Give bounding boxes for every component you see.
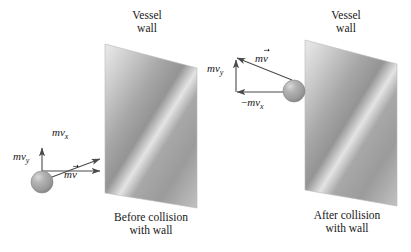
caption-before-line2: with wall <box>103 224 199 237</box>
vector-label-mvy-after-m: m <box>207 62 215 74</box>
vector-label-mv-before: mv <box>64 168 77 180</box>
vector-label-mv-after-m: m <box>255 52 263 64</box>
vector-label-mvy-before-sub: y <box>26 156 30 165</box>
vector-label-mv-before-m: m <box>64 168 72 180</box>
caption-after-line2: with wall <box>301 222 393 235</box>
panel-after-graphics <box>236 40 397 206</box>
physics-diagram-figure: Vessel wall Before collision with wall m… <box>0 0 411 252</box>
vessel-wall-label-before: Vessel wall <box>119 9 175 35</box>
vessel-wall-label-after-line1: Vessel <box>318 9 374 22</box>
vector-label-minus-mvx-after-m: m <box>247 96 255 108</box>
caption-after-line1: After collision <box>301 209 393 222</box>
caption-before-line1: Before collision <box>103 211 199 224</box>
vessel-wall-label-before-line1: Vessel <box>119 9 175 22</box>
vessel-wall-label-after-line2: wall <box>318 22 374 35</box>
caption-after: After collision with wall <box>301 209 393 235</box>
vector-label-mvx-before-sub: x <box>65 132 69 141</box>
vessel-wall-label-after: Vessel wall <box>318 9 374 35</box>
vector-label-mvx-before: mvx <box>52 126 68 142</box>
vector-label-mvy-after-sub: y <box>220 68 224 77</box>
vessel-wall-before <box>105 44 197 208</box>
vector-label-mv-after: mv <box>255 52 268 64</box>
vector-label-minus-mvx-after: −mvx <box>241 96 264 112</box>
vector-label-mv-before-v: v <box>72 168 77 180</box>
vector-label-mvy-after: mvy <box>207 62 223 78</box>
vector-label-mvy-before-m: m <box>13 150 21 162</box>
vector-label-mv-after-v: v <box>263 52 268 64</box>
vessel-wall-after <box>305 40 397 206</box>
vector-label-mv-before-arrow-group: v <box>72 168 77 180</box>
vector-label-mvy-before: mvy <box>13 150 29 166</box>
gas-particle-after <box>283 80 305 102</box>
vessel-wall-label-before-line2: wall <box>119 22 175 35</box>
caption-before: Before collision with wall <box>103 211 199 237</box>
vector-label-mv-after-arrow-group: v <box>263 52 268 64</box>
vector-label-minus-mvx-after-sub: x <box>260 102 264 111</box>
vector-label-mvx-before-m: m <box>52 126 60 138</box>
gas-particle-before <box>31 171 53 193</box>
